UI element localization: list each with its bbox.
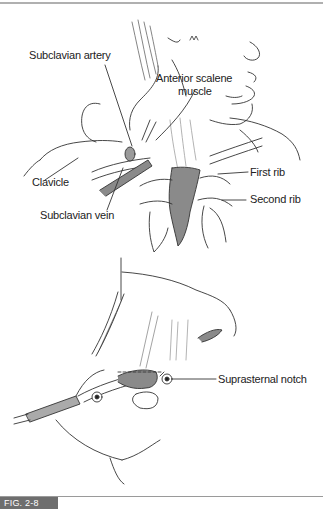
label-anterior-scalene: Anterior scalene [156, 72, 232, 84]
label-first-rib: First rib [250, 166, 285, 178]
label-muscle: muscle [178, 85, 212, 97]
label-subclavian-artery: Subclavian artery [29, 49, 111, 61]
label-suprasternal-notch: Suprasternal notch [218, 373, 307, 385]
label-clavicle: Clavicle [32, 176, 69, 188]
figure-tag: FIG. 2-8 [0, 497, 58, 509]
label-second-rib: Second rib [250, 193, 301, 205]
label-subclavian-vein: Subclavian vein [40, 209, 114, 221]
